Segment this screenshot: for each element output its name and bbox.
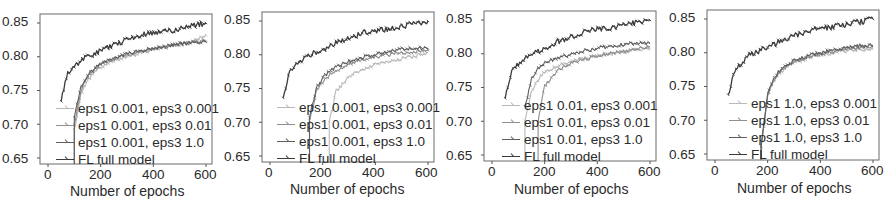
y-tick-label: 0.85: [2, 14, 28, 29]
x-tick-label: 200: [756, 163, 779, 178]
x-tick-label: 600: [415, 165, 438, 180]
chart-panel-2: 0.85 0.80 0.75 0.70 0.65 0 200 400 600 N…: [222, 0, 444, 209]
x-tick-label: 200: [533, 164, 556, 179]
legend-marker-icon: [56, 159, 74, 160]
x-tick-label: 0: [265, 165, 273, 180]
x-tick-label: 0: [488, 164, 496, 179]
x-axis-label: Number of epochs: [737, 180, 851, 196]
legend-marker-icon: [502, 139, 520, 140]
y-tick-label: 0.80: [669, 44, 695, 59]
y-tick-label: 0.75: [446, 79, 472, 94]
legend-marker-icon: [729, 137, 747, 138]
y-tick-label: 0.75: [2, 82, 28, 97]
x-axis-label: Number of epochs: [290, 181, 404, 197]
x-tick-label: 600: [638, 164, 661, 179]
x-tick-label: 200: [309, 165, 332, 180]
x-tick-label: 0: [711, 163, 719, 178]
x-tick-label: 400: [142, 167, 165, 182]
y-tick-label: 0.70: [669, 113, 695, 128]
chart-panel-1: 0.85 0.80 0.75 0.70 0.65 0 200 400 600 N…: [0, 0, 222, 209]
x-axis-label: Number of epochs: [514, 181, 628, 197]
x-tick-label: 200: [89, 167, 112, 182]
y-tick-label: 0.75: [224, 80, 250, 95]
legend-marker-icon: [56, 142, 74, 143]
legend-marker-icon: [729, 120, 747, 121]
legend-marker-icon: [502, 122, 520, 123]
legend-marker-icon: [56, 125, 74, 126]
y-tick-label: 0.65: [446, 148, 472, 163]
legend-marker-icon: [729, 154, 747, 155]
y-tick-label: 0.85: [446, 11, 472, 26]
legend-marker-icon: [277, 124, 295, 125]
legend-marker-icon: [277, 107, 295, 108]
x-axis-label: Number of epochs: [70, 183, 184, 199]
legend-marker-icon: [56, 108, 74, 109]
x-tick-label: 400: [362, 165, 385, 180]
x-tick-label: 400: [586, 164, 609, 179]
y-tick-label: 0.65: [224, 149, 250, 164]
legend-marker-icon: [502, 156, 520, 157]
y-tick-label: 0.85: [669, 10, 695, 25]
y-tick-label: 0.65: [2, 151, 28, 166]
x-tick-label: 600: [194, 167, 217, 182]
legend-marker-icon: [502, 105, 520, 106]
y-tick-label: 0.80: [2, 48, 28, 63]
x-tick-label: 600: [861, 163, 884, 178]
chart-panel-4: 0.85 0.80 0.75 0.70 0.65 0 200 400 600 N…: [666, 0, 888, 209]
x-tick-label: 0: [44, 167, 52, 182]
legend-marker-icon: [277, 158, 295, 159]
chart-panel-3: 0.85 0.80 0.75 0.70 0.65 0 200 400 600 N…: [444, 0, 666, 209]
legend-marker-icon: [729, 103, 747, 104]
x-tick-label: 400: [809, 163, 832, 178]
y-tick-label: 0.80: [224, 46, 250, 61]
y-tick-label: 0.80: [446, 45, 472, 60]
y-tick-label: 0.85: [224, 12, 250, 27]
y-tick-label: 0.70: [446, 114, 472, 129]
y-tick-label: 0.65: [669, 147, 695, 162]
y-tick-label: 0.70: [224, 115, 250, 130]
legend-marker-icon: [277, 141, 295, 142]
figure: 0.85 0.80 0.75 0.70 0.65 0 200 400 600 N…: [0, 0, 889, 209]
y-tick-label: 0.75: [669, 78, 695, 93]
y-tick-label: 0.70: [2, 117, 28, 132]
